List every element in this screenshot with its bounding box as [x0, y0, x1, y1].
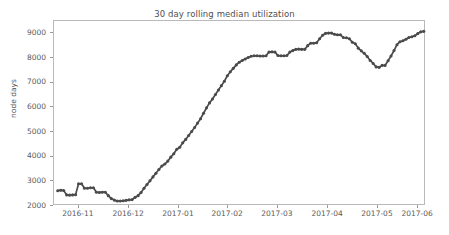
data-point: [116, 200, 119, 203]
y-tick-label: 2000: [6, 201, 46, 210]
data-point: [178, 146, 181, 149]
data-point: [244, 57, 247, 60]
data-point: [419, 30, 422, 33]
data-point: [422, 30, 425, 33]
data-point: [119, 200, 122, 203]
data-point: [157, 168, 160, 171]
data-point: [413, 34, 416, 37]
data-point: [267, 51, 270, 54]
x-tick-mark: [128, 205, 129, 208]
x-tick-mark: [417, 205, 418, 208]
y-tick-label: 5000: [6, 127, 46, 136]
data-point: [71, 193, 74, 196]
data-point: [342, 36, 345, 39]
data-point: [232, 67, 235, 70]
x-tick-mark: [78, 205, 79, 208]
data-point: [306, 44, 309, 47]
y-tick-mark: [50, 131, 53, 132]
data-point: [122, 199, 125, 202]
data-point: [327, 32, 330, 35]
data-point: [404, 38, 407, 41]
data-point: [235, 63, 238, 66]
data-point: [389, 54, 392, 57]
plot-area: [53, 20, 425, 205]
data-point: [321, 34, 324, 37]
data-point: [95, 191, 98, 194]
data-point: [113, 199, 116, 202]
data-point: [169, 156, 172, 159]
data-point: [220, 84, 223, 87]
data-point: [273, 51, 276, 54]
data-point: [392, 49, 395, 52]
data-point: [223, 80, 226, 83]
data-point: [98, 191, 101, 194]
data-point: [357, 47, 360, 50]
data-point: [250, 55, 253, 58]
data-point: [140, 191, 143, 194]
data-point: [407, 36, 410, 39]
data-point: [62, 189, 65, 192]
data-point: [202, 112, 205, 115]
data-point: [214, 93, 217, 96]
chart-title: 30 day rolling median utilization: [0, 9, 449, 19]
data-point: [354, 42, 357, 45]
data-point: [193, 126, 196, 129]
data-point: [324, 32, 327, 35]
data-point: [241, 59, 244, 62]
data-point: [372, 62, 375, 65]
data-point: [101, 191, 104, 194]
data-point: [151, 175, 154, 178]
data-point: [86, 187, 89, 190]
data-point: [59, 189, 62, 192]
data-point: [297, 48, 300, 51]
data-point: [131, 198, 134, 201]
data-point: [229, 70, 232, 73]
data-point: [375, 65, 378, 68]
data-point: [74, 193, 77, 196]
data-point: [247, 56, 250, 59]
data-point: [125, 199, 128, 202]
data-point: [253, 54, 256, 57]
data-point: [339, 33, 342, 36]
y-tick-label: 7000: [6, 77, 46, 86]
data-point: [172, 152, 175, 155]
data-point: [282, 54, 285, 57]
data-point: [175, 148, 178, 151]
y-tick-mark: [50, 57, 53, 58]
data-point: [398, 40, 401, 43]
data-point: [330, 32, 333, 35]
y-tick-mark: [50, 32, 53, 33]
series-markers: [56, 30, 425, 203]
data-point: [315, 41, 318, 44]
data-point: [416, 32, 419, 35]
data-point: [262, 54, 265, 57]
data-point: [291, 49, 294, 52]
data-point: [410, 35, 413, 38]
data-point: [208, 101, 211, 104]
data-point: [187, 134, 190, 137]
y-tick-mark: [50, 106, 53, 107]
data-point: [336, 33, 339, 36]
data-point: [256, 54, 259, 57]
chart-figure: 30 day rolling median utilization node d…: [0, 0, 449, 235]
data-point: [137, 194, 140, 197]
series-line: [58, 31, 424, 201]
y-tick-label: 9000: [6, 28, 46, 37]
y-tick-label: 6000: [6, 102, 46, 111]
data-point: [259, 54, 262, 57]
data-point: [56, 189, 59, 192]
data-point: [65, 193, 68, 196]
x-tick-mark: [327, 205, 328, 208]
y-tick-mark: [50, 82, 53, 83]
data-point: [276, 54, 279, 57]
data-point: [163, 163, 166, 166]
data-point: [333, 33, 336, 36]
data-point: [142, 187, 145, 190]
y-tick-mark: [50, 156, 53, 157]
data-point: [384, 64, 387, 67]
x-tick-mark: [377, 205, 378, 208]
data-point: [110, 197, 113, 200]
data-point: [211, 97, 214, 100]
data-point: [104, 191, 107, 194]
y-tick-mark: [50, 180, 53, 181]
